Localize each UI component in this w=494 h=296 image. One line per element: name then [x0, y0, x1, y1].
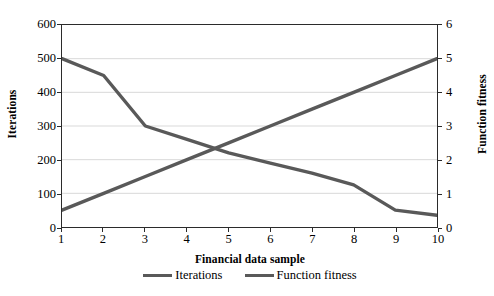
plot-area — [61, 24, 438, 228]
y-axis-right-tick-mark — [438, 92, 442, 93]
legend-line-icon — [143, 274, 172, 277]
legend-item-label: Iterations — [175, 269, 222, 282]
y-axis-right-tick-mark — [438, 194, 442, 195]
series-line — [62, 59, 437, 211]
x-axis-tick-mark — [270, 228, 271, 232]
x-axis-tick-label: 10 — [423, 233, 453, 246]
y-axis-left-tick-label: 500 — [22, 52, 56, 65]
x-axis-tick-mark — [396, 228, 397, 232]
x-axis-tick-mark — [354, 228, 355, 232]
gridlines — [62, 59, 437, 194]
y-axis-right-tick-mark — [438, 58, 442, 59]
x-axis-tick-label: 8 — [339, 233, 369, 246]
x-axis-tick-label: 1 — [46, 233, 76, 246]
y-axis-right-title: Function fitness — [472, 0, 492, 228]
y-axis-right-tick-mark — [438, 126, 442, 127]
y-axis-left-tick-label: 400 — [22, 86, 56, 99]
y-axis-left-tick-label: 200 — [22, 154, 56, 167]
x-axis-tick-label: 9 — [381, 233, 411, 246]
series-layer — [62, 59, 437, 216]
x-axis-tick-label: 5 — [214, 233, 244, 246]
y-axis-right-title-text: Function fitness — [476, 74, 488, 154]
x-axis-tick-mark — [102, 228, 103, 232]
y-axis-left-tick-label: 100 — [22, 188, 56, 201]
y-axis-right-tick-label: 4 — [446, 86, 470, 99]
x-axis-tick-label: 4 — [172, 233, 202, 246]
x-axis-title: Financial data sample — [61, 253, 439, 265]
legend-item[interactable]: Iterations — [143, 269, 222, 282]
plot-svg — [62, 25, 437, 227]
y-axis-left-tick-label: 300 — [22, 120, 56, 133]
y-axis-right-tick-label: 5 — [446, 52, 470, 65]
x-axis-tick-mark — [312, 228, 313, 232]
y-axis-right-tick-mark — [438, 228, 442, 229]
x-axis-tick-label: 6 — [255, 233, 285, 246]
x-axis-tick-mark — [228, 228, 229, 232]
chart-figure: Iterations Function fitness Financial da… — [0, 0, 494, 296]
legend-line-icon — [245, 274, 274, 277]
y-axis-right-tick-label: 2 — [446, 154, 470, 167]
x-axis-tick-mark — [186, 228, 187, 232]
y-axis-left-title: Iterations — [3, 0, 21, 228]
y-axis-right-tick-mark — [438, 160, 442, 161]
x-axis-tick-label: 2 — [88, 233, 118, 246]
x-axis-tick-mark — [144, 228, 145, 232]
x-axis-tick-label: 3 — [130, 233, 160, 246]
y-axis-right-tick-label: 3 — [446, 120, 470, 133]
x-axis-tick-mark — [438, 228, 439, 232]
legend-item[interactable]: Function fitness — [245, 269, 357, 282]
y-axis-left-title-text: Iterations — [6, 90, 18, 139]
x-axis-tick-mark — [61, 228, 62, 232]
chart-legend: IterationsFunction fitness — [61, 269, 439, 282]
y-axis-right-tick-label: 1 — [446, 188, 470, 201]
y-axis-right-tick-mark — [438, 24, 442, 25]
legend-item-label: Function fitness — [277, 269, 357, 282]
y-axis-right-tick-label: 6 — [446, 18, 470, 31]
y-axis-left-tick-label: 600 — [22, 18, 56, 31]
x-axis-tick-label: 7 — [297, 233, 327, 246]
